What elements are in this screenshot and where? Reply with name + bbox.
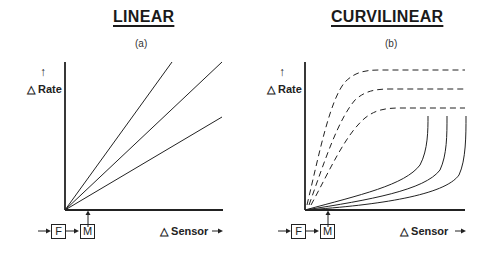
line-mid: [65, 62, 222, 210]
m-arrow-head: [326, 211, 331, 216]
curvilinear-y-label: △ Rate: [267, 83, 302, 96]
linear-box-m: M: [80, 224, 95, 239]
line-steep: [65, 62, 172, 210]
linear-y-arrow: ↑: [40, 65, 46, 79]
dashed-curve-1: [307, 70, 465, 205]
line-shallow: [65, 117, 222, 210]
curvilinear-title: CURVILINEAR: [331, 8, 443, 26]
curvilinear-plot: [305, 62, 466, 227]
solid-curve-3: [305, 116, 466, 210]
linear-x-label: △ Sensor: [160, 225, 208, 238]
curvilinear-x-label: △ Sensor: [400, 225, 448, 238]
linear-box-f: F: [51, 224, 66, 239]
curvilinear-box-m: M: [320, 224, 335, 239]
solid-curve-2: [305, 116, 447, 210]
linear-plot: [65, 62, 223, 227]
linear-subtitle: (a): [135, 38, 147, 49]
curvilinear-y-arrow: ↑: [279, 65, 285, 79]
dashed-curve-3: [311, 108, 465, 205]
curvilinear-subtitle: (b): [385, 38, 397, 49]
curvilinear-box-f: F: [291, 224, 306, 239]
linear-title: LINEAR: [113, 8, 174, 26]
m-arrow-head: [86, 211, 91, 216]
linear-y-label: △ Rate: [27, 83, 62, 96]
